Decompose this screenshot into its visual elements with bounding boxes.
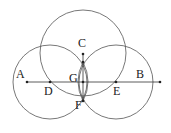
point-e — [115, 81, 118, 84]
label-c: C — [78, 36, 86, 50]
point-c — [82, 53, 85, 56]
point-upper-intersection — [82, 61, 85, 64]
label-b: B — [136, 67, 144, 81]
label-a: A — [16, 67, 25, 81]
point-g — [82, 81, 85, 84]
label-g: G — [69, 71, 78, 85]
point-f — [82, 100, 85, 103]
label-d: D — [44, 84, 53, 98]
label-e: E — [113, 84, 120, 98]
label-f: F — [75, 98, 82, 112]
point-a — [26, 81, 29, 84]
point-b — [159, 81, 162, 84]
geometry-diagram: A B C D E F G — [0, 0, 171, 133]
point-d — [49, 81, 52, 84]
